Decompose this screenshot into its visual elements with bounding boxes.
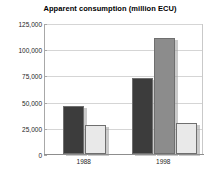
y-axis-tick-mark — [44, 155, 47, 156]
y-axis-tick-label: 50,000 — [2, 99, 42, 106]
chart-container: Apparent consumption (million ECU) 025,0… — [0, 0, 220, 184]
y-axis-tick-mark — [44, 76, 47, 77]
y-axis-tick-label: 100,000 — [2, 47, 42, 54]
bar-1998-series-3-light — [176, 123, 197, 154]
gridline — [45, 24, 202, 25]
y-axis-tick-label: 125,000 — [2, 21, 42, 28]
y-axis-tick-label: 75,000 — [2, 73, 42, 80]
y-axis-tick-label: 25,000 — [2, 125, 42, 132]
gridline — [45, 50, 202, 51]
bar-1988-series-3-light — [85, 125, 106, 154]
y-axis-tick-labels: 025,00050,00075,000100,000125,000 — [0, 24, 42, 155]
y-axis-tick-mark — [44, 103, 47, 104]
y-axis-tick-mark — [44, 50, 47, 51]
y-axis-tick-label: 0 — [2, 152, 42, 159]
plot-area — [44, 24, 203, 155]
y-axis-line — [44, 24, 45, 155]
y-axis-tick-mark — [44, 24, 47, 25]
gridline — [45, 76, 202, 77]
bar-1998-series-1-dark — [132, 78, 153, 154]
bar-1998-series-2-medium — [154, 38, 175, 154]
x-axis-line — [44, 154, 204, 155]
bar-1988-series-1-dark — [63, 106, 84, 154]
y-axis-tick-mark — [44, 129, 47, 130]
gridline — [45, 103, 202, 104]
chart-title: Apparent consumption (million ECU) — [0, 4, 220, 14]
x-axis-category-label: 1998 — [124, 158, 204, 166]
x-axis-category-label: 1988 — [44, 158, 124, 166]
